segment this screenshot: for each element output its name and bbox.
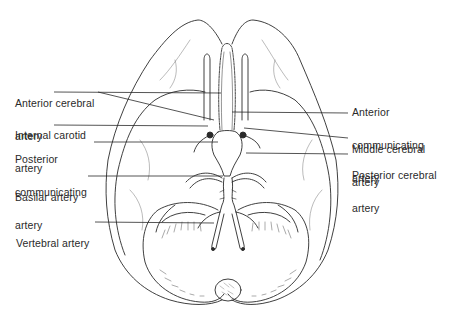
posterior-cerebral-artery-right (232, 173, 266, 182)
circle-of-willis (212, 131, 242, 177)
basilar-artery (220, 178, 236, 212)
leader-vertebral (95, 222, 214, 223)
vertebral-artery-right (232, 212, 244, 250)
medulla-cross-section (215, 279, 241, 301)
left-hemisphere-outline (106, 20, 222, 305)
left-cerebellum (143, 203, 224, 303)
right-temporal-lobe (250, 90, 331, 260)
brain-arteries-diagram: Anterior cerebral artery Internal caroti… (0, 0, 453, 316)
vertebral-artery-left (212, 212, 224, 250)
leader-posterior-cerebral (246, 153, 348, 154)
left-olfactory-tract (204, 54, 210, 120)
label-posterior-cerebral-artery: Posterior cerebral artery (352, 148, 437, 236)
leader-middle-cerebral (244, 128, 348, 138)
label-vertebral-artery: Vertebral artery (16, 216, 89, 271)
right-olfactory-tract (242, 54, 248, 120)
anterior-cerebral-arteries (219, 44, 236, 131)
right-cerebellum (228, 203, 309, 303)
posterior-cerebral-artery-left (186, 173, 222, 182)
leader-anterior-cerebral-2 (98, 92, 214, 120)
leader-anterior-communicating (232, 112, 348, 113)
middle-cerebral-artery-left (194, 135, 210, 152)
